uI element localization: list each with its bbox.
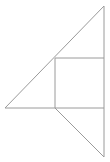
geometric-figure-canvas — [0, 0, 110, 162]
